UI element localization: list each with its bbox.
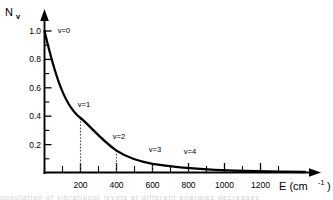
annotation-v1: v=1 bbox=[78, 100, 90, 109]
y-axis-tick-labels: 1.0 0.8 0.6 0.4 0.2 bbox=[29, 26, 41, 150]
x-axis-title: E (cm -1 ) bbox=[279, 178, 331, 192]
axes-group bbox=[40, 9, 321, 177]
level-annotations: v=0 v=1 v=2 v=3 v=4 bbox=[58, 26, 196, 156]
annotation-v2: v=2 bbox=[113, 132, 125, 141]
annotation-v3: v=3 bbox=[149, 145, 161, 154]
x-tick-label: 200 bbox=[73, 180, 87, 190]
vibrational-population-figure: 1.0 0.8 0.6 0.4 0.2 200 400 600 bbox=[0, 0, 333, 200]
annotation-v4: v=4 bbox=[184, 147, 196, 156]
cropped-caption-fragment: population of vibrational levels at diff… bbox=[0, 194, 333, 200]
x-axis-tick-labels: 200 400 600 800 1000 1200 bbox=[73, 180, 270, 190]
x-axis-title-close: ) bbox=[327, 180, 331, 192]
y-tick-label: 0.8 bbox=[29, 54, 41, 64]
y-tick-label: 1.0 bbox=[29, 26, 41, 36]
population-decay-chart: 1.0 0.8 0.6 0.4 0.2 200 400 600 bbox=[0, 0, 333, 200]
y-tick-label: 0.4 bbox=[29, 111, 41, 121]
x-tick-label: 800 bbox=[181, 180, 195, 190]
y-axis-title-subscript: v bbox=[16, 12, 21, 21]
y-axis-title-base: N bbox=[5, 6, 13, 18]
y-tick-label: 0.2 bbox=[29, 140, 41, 150]
annotation-v0: v=0 bbox=[58, 26, 70, 35]
y-tick-label: 0.6 bbox=[29, 83, 41, 93]
y-axis-title: N v bbox=[5, 6, 21, 21]
x-tick-label: 1000 bbox=[215, 180, 234, 190]
y-axis-arrow-icon bbox=[40, 9, 49, 21]
x-tick-label: 1200 bbox=[251, 180, 270, 190]
x-tick-label: 400 bbox=[109, 180, 123, 190]
x-axis-title-exponent: -1 bbox=[318, 178, 324, 187]
x-axis-arrow-icon bbox=[309, 168, 321, 177]
y-axis-ticks bbox=[45, 31, 52, 159]
x-tick-label: 600 bbox=[145, 180, 159, 190]
level-drop-lines bbox=[81, 118, 189, 172]
x-axis-title-base: E (cm bbox=[279, 180, 308, 192]
